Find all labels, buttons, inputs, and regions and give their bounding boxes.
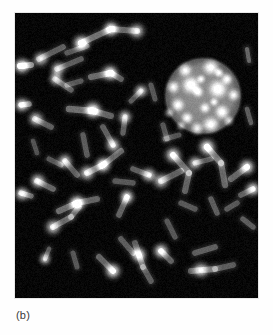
micrograph-image [15,13,258,298]
figure-caption: (b) [16,308,30,322]
figure-container: (b) [0,0,273,335]
micrograph-panel [15,13,258,298]
